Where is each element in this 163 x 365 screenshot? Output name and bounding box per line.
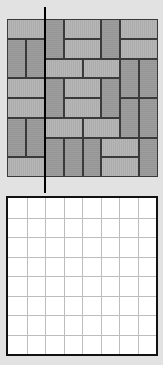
horizontal-brick xyxy=(7,78,45,98)
vertical-brick xyxy=(45,19,64,59)
vertical-brick xyxy=(7,118,26,158)
vertical-brick xyxy=(64,138,83,178)
grid-line xyxy=(8,315,156,316)
grid-line xyxy=(8,257,156,258)
tile-board xyxy=(7,19,158,177)
grid-line xyxy=(8,218,156,219)
horizontal-brick xyxy=(64,98,102,118)
vertical-brick xyxy=(139,59,158,99)
vertical-brick xyxy=(101,78,120,118)
horizontal-brick xyxy=(7,19,45,39)
horizontal-brick xyxy=(45,118,83,138)
vertical-brick xyxy=(139,138,158,178)
vertical-brick xyxy=(101,19,120,59)
vertical-brick xyxy=(120,98,139,138)
vertical-brick xyxy=(83,138,102,178)
horizontal-brick xyxy=(120,19,158,39)
horizontal-brick xyxy=(64,19,102,39)
vertical-brick xyxy=(26,39,45,79)
vertical-brick xyxy=(45,138,64,178)
horizontal-brick xyxy=(101,157,139,177)
horizontal-brick xyxy=(64,39,102,59)
vertical-brick xyxy=(139,98,158,138)
grid-line xyxy=(8,296,156,297)
cut-line xyxy=(44,7,46,193)
horizontal-brick xyxy=(64,78,102,98)
empty-grid xyxy=(6,196,158,356)
grid-line xyxy=(8,276,156,277)
vertical-brick xyxy=(7,39,26,79)
horizontal-brick xyxy=(45,59,83,79)
vertical-brick xyxy=(45,78,64,118)
horizontal-brick xyxy=(83,118,121,138)
horizontal-brick xyxy=(7,98,45,118)
grid-line xyxy=(8,237,156,238)
grid-line xyxy=(8,335,156,336)
vertical-brick xyxy=(26,118,45,158)
vertical-brick xyxy=(120,59,139,99)
horizontal-brick xyxy=(101,138,139,158)
horizontal-brick xyxy=(83,59,121,79)
horizontal-brick xyxy=(7,157,45,177)
horizontal-brick xyxy=(120,39,158,59)
